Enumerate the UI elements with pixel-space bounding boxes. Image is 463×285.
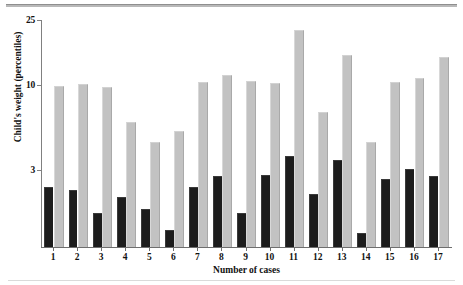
x-tick-label: 4 xyxy=(123,252,128,262)
x-tick-label: 17 xyxy=(433,252,443,262)
y-tick-mark xyxy=(37,170,41,171)
bar-dark xyxy=(429,176,438,247)
x-tick-label: 10 xyxy=(265,252,275,262)
bar-dark xyxy=(44,187,53,247)
x-tick-label: 7 xyxy=(195,252,200,262)
x-tick-mark xyxy=(318,247,319,251)
bar-dark xyxy=(357,233,366,247)
x-tick-label: 2 xyxy=(75,252,80,262)
x-tick-label: 8 xyxy=(219,252,224,262)
bar-light xyxy=(439,57,449,247)
bar-dark xyxy=(117,197,126,247)
bar-light xyxy=(390,82,400,247)
x-axis-title: Number of cases xyxy=(41,265,452,275)
y-tick-label: 25 xyxy=(26,15,35,25)
bar-dark xyxy=(237,213,246,247)
x-tick-mark xyxy=(125,247,126,251)
x-tick-mark xyxy=(390,247,391,251)
bar-light xyxy=(150,142,160,247)
bar-dark xyxy=(285,156,294,247)
bar-dark xyxy=(93,213,102,247)
bar-dark xyxy=(165,230,174,247)
x-tick-mark xyxy=(197,247,198,251)
bar-light xyxy=(366,142,376,247)
x-tick-label: 1 xyxy=(51,252,56,262)
x-tick-mark xyxy=(77,247,78,251)
x-tick-mark xyxy=(342,247,343,251)
bar-light xyxy=(294,30,304,247)
bar-light xyxy=(126,122,136,247)
x-tick-mark xyxy=(221,247,222,251)
x-tick-mark xyxy=(270,247,271,251)
y-tick-mark xyxy=(37,20,41,21)
x-tick-label: 16 xyxy=(409,252,419,262)
x-tick-label: 9 xyxy=(243,252,248,262)
x-tick-mark xyxy=(438,247,439,251)
bar-light xyxy=(342,55,352,247)
x-tick-mark xyxy=(101,247,102,251)
x-tick-label: 12 xyxy=(313,252,323,262)
bar-dark xyxy=(333,160,342,247)
plot-area: 31025 1234567891011121314151617 xyxy=(41,20,450,247)
bar-light xyxy=(415,78,425,247)
x-tick-label: 15 xyxy=(385,252,395,262)
bar-dark xyxy=(381,179,390,247)
figure-container: 31025 1234567891011121314151617 Child's … xyxy=(0,0,463,285)
bar-dark xyxy=(309,194,318,247)
y-tick-label: 3 xyxy=(30,165,35,175)
bar-light xyxy=(222,75,232,247)
x-tick-mark xyxy=(366,247,367,251)
x-tick-mark xyxy=(246,247,247,251)
x-tick-mark xyxy=(414,247,415,251)
x-tick-label: 14 xyxy=(361,252,371,262)
bar-light xyxy=(54,86,64,247)
bar-light xyxy=(102,87,112,247)
y-axis-title: Child's weight (percentiles) xyxy=(13,17,23,157)
x-tick-mark xyxy=(149,247,150,251)
x-tick-mark xyxy=(53,247,54,251)
y-tick-mark xyxy=(37,85,41,86)
bar-dark xyxy=(141,209,150,247)
x-tick-label: 6 xyxy=(171,252,176,262)
bar-dark xyxy=(69,190,78,247)
bar-dark xyxy=(405,169,414,247)
caption-divider-rule xyxy=(8,280,455,281)
top-divider-rule xyxy=(6,4,457,7)
bar-dark xyxy=(213,176,222,247)
bar-light xyxy=(318,112,328,247)
bar-light xyxy=(198,82,208,247)
x-tick-label: 3 xyxy=(99,252,104,262)
bar-dark xyxy=(261,175,270,247)
bar-light xyxy=(78,84,88,247)
bar-dark xyxy=(189,187,198,247)
y-tick-label: 10 xyxy=(26,80,35,90)
x-tick-label: 5 xyxy=(147,252,152,262)
x-tick-mark xyxy=(173,247,174,251)
x-tick-mark xyxy=(294,247,295,251)
bar-light xyxy=(270,83,280,247)
x-tick-label: 13 xyxy=(337,252,347,262)
bar-light xyxy=(174,131,184,247)
x-tick-label: 11 xyxy=(289,252,298,262)
bar-light xyxy=(246,81,256,247)
